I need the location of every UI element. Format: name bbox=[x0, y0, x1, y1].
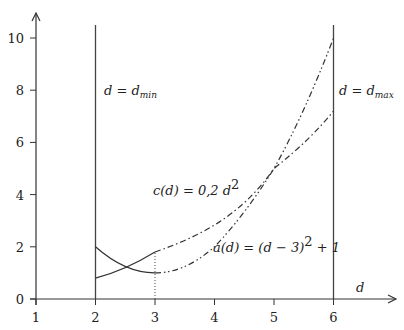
y-tick-labels: 0 2 4 6 8 10 bbox=[7, 31, 24, 307]
axes bbox=[30, 13, 396, 305]
a-curve-solid bbox=[96, 247, 156, 273]
y-tick-label: 8 bbox=[16, 83, 24, 98]
c-curve-dashdot bbox=[155, 111, 334, 252]
c-curve-label: c(d) = 0,2 d2 bbox=[153, 177, 239, 198]
dmin-label: d = dmin bbox=[104, 83, 157, 100]
dmax-label: d = dmax bbox=[339, 83, 394, 100]
x-tick-label: 2 bbox=[91, 310, 99, 325]
y-tick-label: 0 bbox=[16, 292, 24, 307]
a-curve-label: a(d) = (d − 3)2 + 1 bbox=[213, 234, 340, 255]
x-tick-label: 5 bbox=[270, 310, 278, 325]
x-axis-label: d bbox=[356, 280, 364, 295]
x-tick-labels: 1 2 3 4 5 6 bbox=[32, 310, 338, 325]
x-ticks bbox=[36, 299, 334, 305]
y-ticks bbox=[30, 38, 36, 299]
y-tick-label: 2 bbox=[16, 240, 24, 255]
y-tick-label: 6 bbox=[16, 135, 24, 150]
c-curve-solid-smooth bbox=[96, 252, 156, 278]
x-tick-label: 4 bbox=[210, 310, 218, 325]
x-tick-label: 3 bbox=[151, 310, 159, 325]
x-tick-label: 1 bbox=[32, 310, 40, 325]
y-tick-label: 10 bbox=[7, 31, 24, 46]
x-tick-label: 6 bbox=[329, 310, 337, 325]
chart: 0 2 4 6 8 10 1 2 3 4 5 6 d d = dmin d = … bbox=[0, 0, 404, 330]
y-tick-label: 4 bbox=[16, 188, 24, 203]
